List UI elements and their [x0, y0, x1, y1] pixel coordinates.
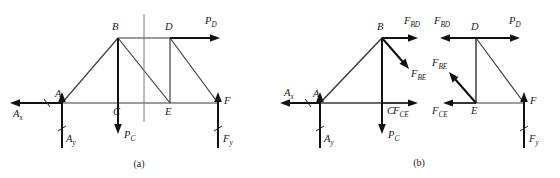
arrowhead: [443, 99, 453, 106]
force-arrow-Ay: Ay: [58, 92, 76, 148]
panel-b-left-members: [320, 38, 382, 103]
force-label-Fy: Fy: [222, 133, 233, 147]
panel-b-right-group: D E F FBD PD FBE FCE: [413, 15, 539, 169]
arrowhead: [378, 124, 386, 134]
node-label-D: D: [470, 21, 479, 32]
force-label-Ay: Ay: [65, 133, 76, 147]
force-label-FBD: FBD: [403, 15, 421, 29]
force-arrow-PC: PC: [114, 38, 135, 143]
force-arrow-FBD: FBD: [433, 15, 476, 42]
force-arrow-PD: PD: [476, 15, 521, 42]
force-label-FCE: FCE: [431, 105, 448, 119]
arrowhead: [520, 92, 528, 102]
force-arrow-FCE: FCE: [431, 99, 476, 118]
force-arrow-FBD: FBD: [382, 15, 421, 42]
force-arrow-FBE: FBE: [382, 38, 427, 82]
arrowhead: [510, 34, 520, 42]
arrowhead: [280, 99, 290, 107]
force-arrow-FBE: FBE: [431, 57, 476, 103]
panel-a-group: A B C D E F Ax Ay PC PD: [10, 14, 233, 170]
member-DF: [170, 38, 218, 103]
arrowhead: [408, 99, 418, 106]
panel-a-members: [62, 38, 218, 103]
force-label-Ax: Ax: [283, 87, 294, 101]
figure-container: A B C D E F Ax Ay PC PD: [0, 0, 560, 178]
node-label-F: F: [529, 95, 537, 106]
node-label-E: E: [164, 106, 172, 117]
arrowhead: [114, 124, 122, 134]
force-label-PC: PC: [387, 129, 399, 143]
arrowhead: [440, 34, 450, 42]
member-DF: [476, 38, 524, 103]
statics-figure: A B C D E F Ax Ay PC PD: [0, 0, 560, 178]
caption-b: (b): [413, 157, 425, 169]
force-label-PD: PD: [204, 15, 217, 29]
arrowhead: [10, 99, 20, 107]
force-arrow-Ay: Ay: [316, 92, 334, 148]
force-label-PC: PC: [123, 129, 135, 143]
force-label-FBE: FBE: [410, 68, 427, 82]
arrowhead: [408, 34, 418, 42]
force-label-Fy: Fy: [528, 133, 539, 147]
node-label-E: E: [470, 105, 478, 116]
arrowhead: [214, 92, 222, 102]
node-label-F: F: [223, 95, 231, 106]
node-label-D: D: [164, 21, 173, 32]
node-label-B: B: [377, 21, 384, 32]
force-label-FBE: FBE: [431, 57, 448, 71]
member-AB: [62, 38, 118, 103]
arrowhead: [210, 34, 220, 42]
node-label-B: B: [112, 21, 119, 32]
panel-b-right-members: [476, 38, 524, 103]
force-label-PD: PD: [508, 15, 521, 29]
force-arrow-Ax: Ax: [10, 99, 62, 122]
force-label-Ax: Ax: [12, 108, 23, 122]
member-AB: [320, 38, 382, 103]
force-arrow-PD: PD: [170, 15, 220, 42]
force-label-FCE: FCE: [392, 105, 409, 119]
force-label-Ay: Ay: [323, 133, 334, 147]
caption-a: (a): [133, 158, 144, 170]
panel-b-left-group: A B C Ax Ay PC FBD: [280, 15, 427, 148]
force-label-FBD: FBD: [433, 15, 451, 29]
